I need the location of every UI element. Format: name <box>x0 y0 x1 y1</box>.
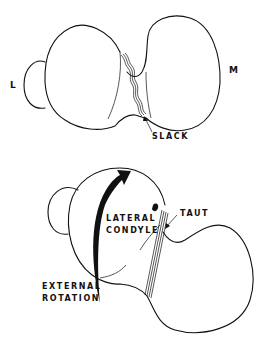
top-medial-condyle <box>127 16 220 131</box>
bottom-figure <box>48 168 253 332</box>
slack-ligament <box>121 53 146 116</box>
attachment-mark <box>152 204 158 212</box>
top-lateral-bump <box>24 61 45 108</box>
top-figure <box>24 16 220 132</box>
external-rotation-label-line1: EXTERNAL <box>42 282 102 292</box>
external-rotation-label-line2: ROTATION <box>42 294 100 304</box>
slack-label: SLACK <box>152 132 189 142</box>
bottom-notch-line-lower <box>100 265 126 278</box>
bottom-medial-condyle <box>120 225 253 332</box>
taut-pointer-line <box>167 215 177 226</box>
lateral-condyle-label-line1: LATERAL <box>106 214 156 224</box>
taut-label: TAUT <box>180 209 209 219</box>
top-medial-side-label: M <box>229 65 238 75</box>
diagram-canvas <box>0 0 269 347</box>
top-notch-line-left <box>108 52 121 119</box>
top-notch-line-right <box>146 72 151 118</box>
top-lateral-condyle <box>45 25 146 129</box>
lateral-condyle-label-line2: CONDYLE <box>106 226 159 236</box>
top-lateral-side-label: L <box>10 80 16 90</box>
